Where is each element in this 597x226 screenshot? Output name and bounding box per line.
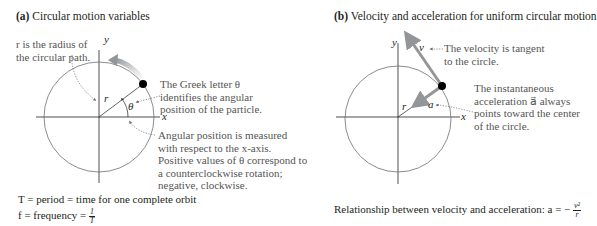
panel-a-diagram — [36, 50, 160, 183]
note-radius: r is the radius of the circular path. — [16, 38, 96, 63]
theta-label: θ — [128, 100, 133, 112]
particle — [139, 80, 147, 88]
x-axis-label: x — [461, 110, 466, 122]
equation-period: T = period = time for one complete orbit — [18, 193, 196, 205]
equation-relation-lhs: Relationship between velocity and accele… — [334, 203, 570, 215]
y-axis-label: y — [104, 33, 109, 45]
panel-b-title-text: Velocity and acceleration for uniform ci… — [351, 10, 597, 22]
acceleration-label: a⃗ — [428, 98, 442, 110]
particle — [438, 82, 446, 90]
note-velocity: The velocity is tangent to the circle. — [444, 42, 554, 67]
leader-theta — [137, 96, 160, 102]
equation-relation: Relationship between velocity and accele… — [334, 202, 581, 219]
note-theta: The Greek letter θ identifies the angula… — [160, 78, 280, 116]
radius-label: r — [402, 100, 406, 112]
leader-accel — [437, 105, 473, 112]
equation-frequency-lhs: f = frequency = — [18, 209, 86, 221]
panel-b-label: (b) — [334, 10, 348, 22]
equation-frequency: f = frequency = 1 T — [18, 208, 95, 225]
fraction-denominator: T — [89, 217, 95, 225]
radius-label: r — [104, 92, 108, 104]
note-angle: Angular position is measured with respec… — [158, 129, 308, 192]
relation-fraction: v² r — [573, 202, 581, 219]
panel-a-title-text: Circular motion variables — [32, 10, 150, 22]
y-axis-label: y — [392, 36, 397, 48]
motion-arrow-icon — [114, 60, 140, 76]
velocity-label: v⃗ — [419, 41, 432, 53]
panel-a-label: (a) — [16, 10, 29, 22]
note-acceleration: The instantaneous acceleration a⃗ always… — [474, 82, 586, 132]
panel-b-title: (b) Velocity and acceleration for unifor… — [334, 10, 597, 22]
frequency-fraction: 1 T — [89, 208, 95, 225]
panel-a-title: (a) Circular motion variables — [16, 10, 150, 22]
fraction-denominator: r — [573, 211, 581, 219]
